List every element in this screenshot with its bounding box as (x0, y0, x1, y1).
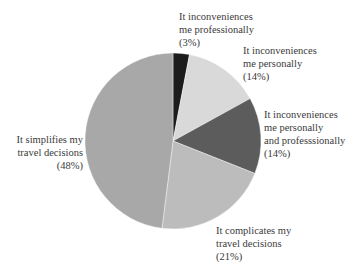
label-inconveniences-both: It inconveniences me personally and prof… (264, 108, 345, 160)
pie-slice-4 (85, 53, 173, 228)
label-percent: (14%) (243, 70, 317, 83)
label-simplifies: It simplifies my travel decisions (48%) (0, 133, 83, 172)
label-line: It inconveniences (243, 44, 317, 57)
label-complicates: It complicates my travel decisions (21%) (216, 224, 291, 263)
label-percent: (14%) (264, 147, 345, 160)
label-inconveniences-personally: It inconveniences me personally (14%) (243, 44, 317, 83)
label-line: It inconveniences (179, 10, 254, 23)
label-line: and professsionally (264, 134, 345, 147)
label-line: me professionally (179, 23, 254, 36)
label-line: travel decisions (216, 237, 291, 250)
label-line: me personally (264, 121, 345, 134)
label-percent: (21%) (216, 250, 291, 263)
label-line: It inconveniences (264, 108, 345, 121)
label-line: It complicates my (216, 224, 291, 237)
pie-slices (85, 53, 261, 229)
label-line: me personally (243, 57, 317, 70)
label-percent: (48%) (0, 159, 83, 172)
label-line: travel decisions (0, 146, 83, 159)
label-line: It simplifies my (0, 133, 83, 146)
